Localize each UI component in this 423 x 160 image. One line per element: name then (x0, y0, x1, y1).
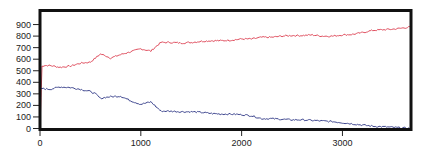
series-line-upper (40, 27, 411, 129)
y-tick-label: 600 (16, 54, 31, 64)
y-tick-label: 100 (16, 112, 31, 122)
series-line-lower (40, 87, 411, 128)
x-tick-label: 2000 (232, 138, 252, 148)
x-axis: 0100020003000 (37, 131, 352, 148)
y-tick-label: 200 (16, 100, 31, 110)
y-tick-label: 300 (16, 89, 31, 99)
plot-frame (40, 11, 411, 130)
x-tick-label: 3000 (332, 138, 352, 148)
y-axis: 0100200300400500600700800900 (16, 20, 39, 134)
y-tick-label: 700 (16, 43, 31, 53)
x-tick-label: 1000 (131, 138, 151, 148)
plot-series (40, 27, 411, 129)
y-tick-label: 0 (26, 124, 31, 134)
y-tick-label: 900 (16, 20, 31, 30)
x-tick-label: 0 (37, 138, 42, 148)
y-tick-label: 800 (16, 31, 31, 41)
y-tick-label: 400 (16, 77, 31, 87)
line-chart: 0100200300400500600700800900 01000200030… (0, 0, 423, 160)
y-tick-label: 500 (16, 66, 31, 76)
